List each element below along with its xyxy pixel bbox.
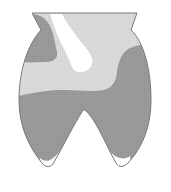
tooth-diagram	[0, 0, 171, 192]
diagram-canvas	[0, 0, 171, 192]
tooth-fill	[0, 0, 171, 192]
